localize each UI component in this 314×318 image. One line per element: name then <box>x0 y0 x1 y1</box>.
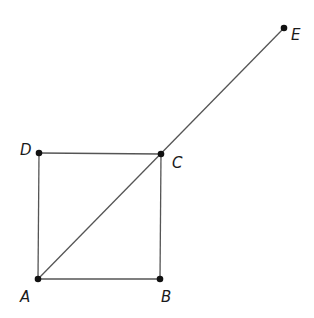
segment-da <box>38 153 39 279</box>
geometry-diagram: ABCDE <box>0 0 314 318</box>
label-b: B <box>161 288 171 306</box>
point-e <box>281 25 288 32</box>
label-d: D <box>20 141 32 159</box>
point-a <box>35 276 42 283</box>
label-a: A <box>19 288 30 306</box>
segment-bc <box>160 154 161 279</box>
segment-cd <box>39 153 161 154</box>
label-c: C <box>172 154 183 172</box>
point-c <box>158 151 165 158</box>
label-e: E <box>291 26 301 44</box>
point-d <box>36 150 43 157</box>
point-b <box>157 276 164 283</box>
